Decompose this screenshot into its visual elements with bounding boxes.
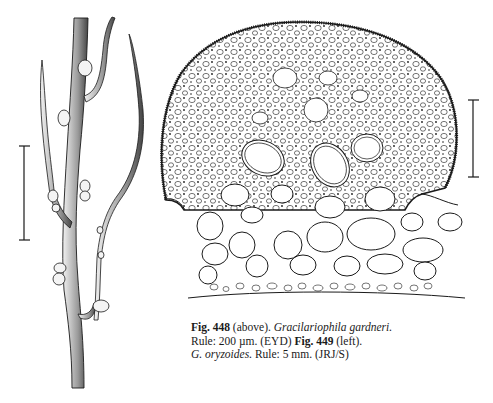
scale-bar-200um	[468, 100, 479, 177]
caption-position-left: (left).	[333, 335, 362, 347]
branch-upper-right	[84, 17, 115, 102]
caption-line-2: Rule: 200 µm. (EYD) Fig. 449 (left).	[191, 335, 491, 349]
caption-fig-448-label: Fig. 448	[191, 321, 230, 333]
figure-449-thallus-illustration	[0, 0, 160, 403]
caption-position-above: (above).	[230, 321, 274, 333]
host-medulla-cells	[197, 184, 462, 284]
figure-caption: Fig. 448 (above). Gracilariophila gardne…	[191, 321, 491, 362]
caption-species-oryzoides: G. oryzoides.	[191, 348, 252, 360]
figure-448-cross-section-illustration	[160, 0, 493, 310]
caption-line-3: G. oryzoides. Rule: 5 mm. (JRJ/S)	[191, 348, 491, 362]
caption-rule-200um: Rule: 200 µm. (EYD)	[191, 335, 294, 347]
caption-line-1: Fig. 448 (above). Gracilariophila gardne…	[191, 321, 491, 335]
scale-bar-5mm	[19, 146, 30, 240]
caption-fig-449-label: Fig. 449	[294, 335, 333, 347]
caption-rule-5mm: Rule: 5 mm. (JRJ/S)	[252, 348, 349, 360]
host-cortex-cells	[210, 283, 432, 292]
caption-species-gardneri: Gracilariophila gardneri.	[274, 321, 392, 333]
